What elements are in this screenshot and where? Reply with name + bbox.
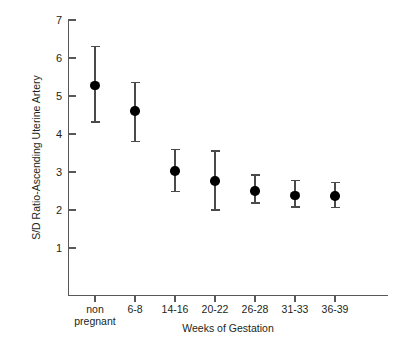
error-bar-cap-upper bbox=[291, 180, 300, 181]
y-axis-tick bbox=[68, 209, 76, 210]
error-bar-cap-upper bbox=[91, 46, 100, 47]
y-axis-tick-label: 3 bbox=[40, 167, 62, 178]
error-bar-cap-lower bbox=[211, 209, 220, 210]
x-axis-tick bbox=[254, 295, 255, 302]
y-axis-tick-label: 7 bbox=[40, 15, 62, 26]
y-axis-tick-label: 1 bbox=[40, 243, 62, 254]
x-axis-tick bbox=[174, 295, 175, 302]
y-axis-line bbox=[68, 20, 69, 296]
y-axis-tick-label: 5 bbox=[40, 91, 62, 102]
x-axis-tick bbox=[134, 295, 135, 302]
y-axis-tick-label: 2 bbox=[40, 205, 62, 216]
y-axis-tick bbox=[68, 95, 76, 96]
y-axis-tick-label: 6 bbox=[40, 53, 62, 64]
y-axis-tick bbox=[68, 57, 76, 58]
error-bar-cap-lower bbox=[251, 202, 260, 203]
x-axis-tick bbox=[214, 295, 215, 302]
data-point-marker bbox=[130, 106, 140, 116]
chart-container: 1234567 nonpregnant6-814-1620-2226-2831-… bbox=[0, 0, 418, 341]
x-axis-line bbox=[68, 295, 388, 296]
y-axis-tick bbox=[68, 19, 76, 20]
y-axis-tick bbox=[68, 247, 76, 248]
error-bar-cap-lower bbox=[171, 191, 180, 192]
x-axis-tick bbox=[334, 295, 335, 302]
error-bar-cap-lower bbox=[331, 207, 340, 208]
x-axis-title: Weeks of Gestation bbox=[68, 322, 388, 334]
data-point-marker bbox=[250, 186, 260, 196]
x-axis-tick-label-line: 36-39 bbox=[300, 303, 370, 315]
error-bar-cap-lower bbox=[91, 121, 100, 122]
error-bar-cap-lower bbox=[291, 206, 300, 207]
error-bar-cap-upper bbox=[211, 150, 220, 151]
error-bar-cap-upper bbox=[331, 182, 340, 183]
y-axis-tick bbox=[68, 171, 76, 172]
data-point-marker bbox=[330, 191, 340, 201]
error-bar-cap-lower bbox=[131, 141, 140, 142]
x-axis-tick bbox=[294, 295, 295, 302]
error-bar-cap-upper bbox=[171, 149, 180, 150]
data-point-marker bbox=[90, 81, 100, 91]
error-bar-cap-upper bbox=[251, 174, 260, 175]
data-point-marker bbox=[170, 166, 180, 176]
y-axis-tick-label: 4 bbox=[40, 129, 62, 140]
data-point-marker bbox=[210, 176, 220, 186]
x-axis-tick bbox=[94, 295, 95, 302]
data-point-marker bbox=[290, 191, 300, 201]
x-axis-tick-label: 36-39 bbox=[300, 303, 370, 315]
y-axis-tick bbox=[68, 133, 76, 134]
y-axis-title: S/D Ratio-Ascending Uterine Artery bbox=[31, 53, 42, 263]
error-bar-cap-upper bbox=[131, 82, 140, 83]
